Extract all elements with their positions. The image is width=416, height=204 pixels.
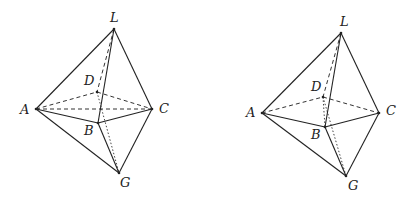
octahedron-diagrams: LDACBG LDACBG xyxy=(0,0,416,204)
vertex-G xyxy=(345,175,348,178)
figure-right-double-pyramid: LDACBG xyxy=(245,14,396,193)
edge-DG-dotted xyxy=(97,92,119,173)
vertex-B xyxy=(97,122,100,125)
vertex-label-D: D xyxy=(83,73,95,88)
vertex-label-A: A xyxy=(19,102,29,117)
vertex-A xyxy=(35,108,38,111)
vertex-A xyxy=(261,112,264,115)
vertex-label-D: D xyxy=(310,79,322,94)
edge-BC-visible xyxy=(325,113,379,127)
vertex-label-B: B xyxy=(310,127,321,142)
edge-AD-hidden xyxy=(36,92,97,109)
vertex-label-L: L xyxy=(339,14,349,29)
edge-AD-hidden xyxy=(262,97,323,113)
vertex-B xyxy=(324,126,327,129)
edge-CG-visible xyxy=(346,113,379,176)
vertex-C xyxy=(151,108,154,111)
vertex-label-C: C xyxy=(386,103,396,118)
vertex-C xyxy=(378,112,381,115)
vertex-label-G: G xyxy=(348,178,358,193)
figure-left-double-pyramid: LDACBG xyxy=(19,10,169,190)
vertex-D xyxy=(96,91,99,94)
vertex-label-C: C xyxy=(159,101,169,116)
vertex-L xyxy=(340,32,343,35)
vertex-label-B: B xyxy=(83,123,94,138)
edge-DG-dotted xyxy=(323,97,346,176)
edge-LC-visible xyxy=(341,33,379,113)
edge-DC-hidden xyxy=(323,97,379,113)
edge-BC-visible xyxy=(98,109,152,123)
edge-LC-visible xyxy=(114,29,152,109)
vertex-D xyxy=(322,96,325,99)
vertex-label-G: G xyxy=(120,175,130,190)
edge-DC-hidden xyxy=(97,92,152,109)
edge-CG-visible xyxy=(119,109,152,173)
vertex-label-A: A xyxy=(245,105,255,120)
vertex-G xyxy=(118,172,121,175)
vertex-label-L: L xyxy=(109,10,119,25)
vertex-L xyxy=(113,28,116,31)
